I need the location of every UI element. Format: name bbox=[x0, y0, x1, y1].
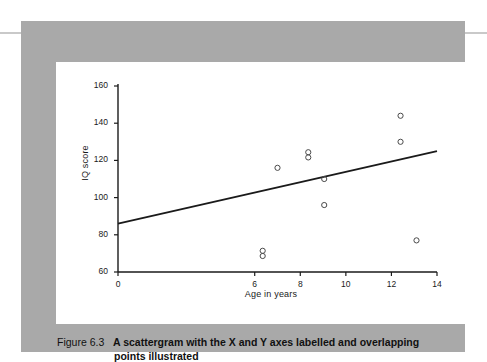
y-tick-label: 160 bbox=[82, 80, 108, 90]
x-tick-label: 14 bbox=[427, 279, 447, 289]
figure-caption-line2: points illustrated bbox=[57, 349, 457, 362]
x-tick-label: 0 bbox=[108, 279, 128, 289]
x-axis-label: Age in years bbox=[206, 289, 336, 299]
y-tick-label: 80 bbox=[82, 229, 108, 239]
y-tick-label: 60 bbox=[82, 266, 108, 276]
data-point bbox=[398, 139, 403, 144]
data-point-overlapping bbox=[306, 150, 311, 155]
data-point bbox=[414, 238, 419, 243]
data-point-overlapping bbox=[260, 248, 265, 253]
figure-caption: Figure 6.3 A scattergram with the X and … bbox=[57, 335, 457, 362]
data-point-overlapping bbox=[306, 155, 311, 160]
x-tick-label: 8 bbox=[290, 279, 310, 289]
trend-line bbox=[118, 151, 437, 224]
y-tick-label: 140 bbox=[82, 117, 108, 127]
figure-number: Figure 6.3 bbox=[57, 336, 104, 348]
data-point-overlapping bbox=[260, 253, 265, 258]
x-tick-label: 6 bbox=[245, 279, 265, 289]
x-tick-label: 10 bbox=[336, 279, 356, 289]
data-point bbox=[275, 165, 280, 170]
figure-caption-line1: A scattergram with the X and Y axes labe… bbox=[113, 336, 419, 348]
y-tick-label: 100 bbox=[82, 192, 108, 202]
plot-panel: IQ score Age in years 608010012014016006… bbox=[56, 62, 479, 324]
x-tick-label: 12 bbox=[381, 279, 401, 289]
data-point bbox=[322, 202, 327, 207]
data-point bbox=[398, 113, 403, 118]
figure-gray-block: IQ score Age in years 608010012014016006… bbox=[21, 21, 465, 352]
scattergram: IQ score Age in years 608010012014016006… bbox=[56, 62, 479, 324]
y-tick-label: 120 bbox=[82, 154, 108, 164]
figure-screenshot: IQ score Age in years 608010012014016006… bbox=[0, 0, 487, 362]
